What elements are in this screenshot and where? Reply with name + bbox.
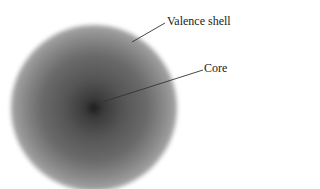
- valence-leader-line: [132, 23, 165, 42]
- valence-shell-label: Valence shell: [167, 14, 231, 29]
- core-leader-line: [96, 70, 203, 104]
- core-label: Core: [204, 61, 227, 76]
